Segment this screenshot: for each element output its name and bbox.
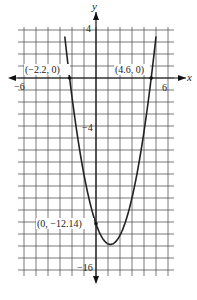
x-axis-label: x	[186, 71, 192, 83]
root-right-point	[149, 76, 153, 80]
y-axis-arrow-down-icon	[93, 276, 99, 284]
y-intercept-label: (0, −12.14)	[37, 218, 82, 230]
tick-label-4: 4	[86, 23, 91, 34]
y-axis-arrow-up-icon	[93, 12, 99, 20]
y-axis-label: y	[91, 0, 97, 12]
tick-label-neg6: −6	[14, 81, 25, 92]
tick-label-neg4: −4	[82, 122, 93, 133]
tick-label-6: 6	[162, 82, 167, 93]
root-left-point	[68, 76, 72, 80]
root-left-label: (−2.2, 0)	[25, 64, 60, 76]
parabola-chart: y x 4 −4 −16 −6 6 (−2.2, 0) (4.6, 0) (0,…	[0, 0, 197, 300]
y-intercept-point	[94, 222, 98, 226]
tick-label-neg16: −16	[77, 262, 93, 273]
root-right-label: (4.6, 0)	[115, 64, 144, 76]
x-axis-arrow-right-icon	[178, 75, 186, 81]
